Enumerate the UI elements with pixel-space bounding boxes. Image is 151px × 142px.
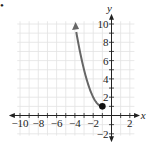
y-tick-label: 8 <box>103 36 109 48</box>
curve-start-point <box>99 103 106 110</box>
curve-end-arrow-icon <box>72 22 79 30</box>
x-tick-label: −10 <box>11 117 29 129</box>
y-tick-label: 4 <box>103 73 109 85</box>
x-tick-label: −2 <box>87 117 99 129</box>
curve-line <box>76 32 102 106</box>
y-axis-label: y <box>106 2 112 14</box>
x-tick-label: 2 <box>127 117 133 129</box>
x-tick-label: −8 <box>32 117 44 129</box>
chart: • −10−8−6−4−22108642−2xy <box>0 0 151 142</box>
y-tick-label: 6 <box>103 55 109 67</box>
series <box>72 22 106 110</box>
y-tick-label: 2 <box>103 91 109 103</box>
x-axis-label: x <box>140 109 146 121</box>
y-axis-down-arrow-icon <box>109 136 114 142</box>
y-tick-label: −2 <box>97 128 109 140</box>
y-axis-up-arrow-icon <box>109 14 114 20</box>
x-tick-label: −6 <box>51 117 63 129</box>
problem-bullet: • <box>0 0 4 11</box>
x-axis-right-arrow-icon <box>134 113 140 118</box>
tick-labels: −10−8−6−4−22108642−2xy <box>11 2 145 140</box>
y-tick-label: 10 <box>98 18 110 30</box>
x-tick-label: −4 <box>69 117 81 129</box>
